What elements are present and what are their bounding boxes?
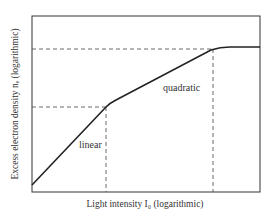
label-quadratic: quadratic <box>163 82 201 93</box>
x-axis-label: Light intensity I₀ (logarithmic) <box>86 199 203 210</box>
chart: linear quadratic Light intensity I₀ (log… <box>0 0 271 215</box>
data-curve <box>32 47 260 185</box>
label-linear: linear <box>79 139 102 150</box>
y-axis-label: Excess electron density nₑ (logarithmic) <box>10 28 21 179</box>
plot-frame <box>32 16 260 192</box>
